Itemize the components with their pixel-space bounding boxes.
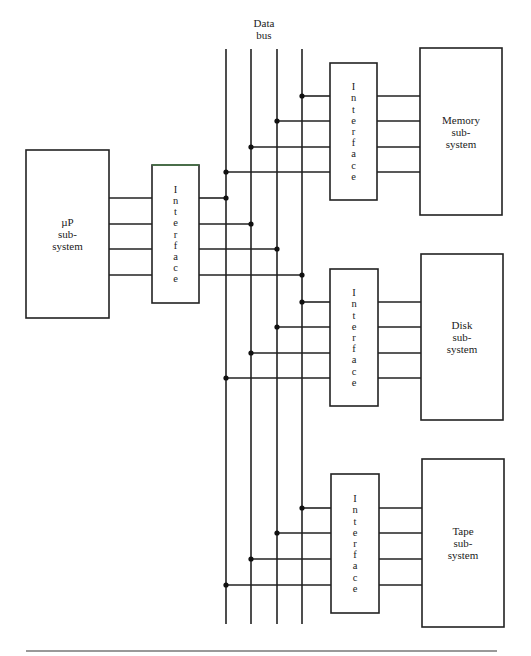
disk-subsystem-label-line: sub- bbox=[453, 331, 472, 343]
junction-dot bbox=[223, 195, 228, 200]
memory-interface-label-letter: f bbox=[352, 137, 356, 148]
tape-subsystem-label-line: system bbox=[448, 549, 479, 561]
tape-interface-label-letter: e bbox=[353, 583, 358, 594]
tape-interface-label-letter: c bbox=[353, 572, 358, 583]
processor-subsystem-label-line: system bbox=[52, 240, 83, 252]
disk-interface-label-letter: r bbox=[352, 332, 356, 343]
tape-subsystem-label-line: Tape bbox=[452, 525, 473, 537]
disk-interface-label-letter: c bbox=[352, 366, 357, 377]
processor-interface-label-letter: n bbox=[173, 195, 179, 206]
junction-dot bbox=[274, 324, 279, 329]
disk-interface-label-letter: I bbox=[352, 287, 356, 298]
junction-dot bbox=[248, 556, 253, 561]
disk-subsystem-label-line: system bbox=[447, 343, 478, 355]
processor-subsystem-label-line: µP bbox=[61, 216, 73, 228]
junction-dot bbox=[299, 272, 304, 277]
tape-interface-label-letter: I bbox=[353, 493, 357, 504]
processor-subsystem-label-line: sub- bbox=[58, 228, 77, 240]
tape-interface-label-letter: a bbox=[353, 560, 358, 571]
junction-dot bbox=[274, 118, 279, 123]
memory-interface-label-letter: e bbox=[351, 115, 356, 126]
memory-interface-label-letter: I bbox=[352, 81, 356, 92]
processor-interface-label-letter: c bbox=[173, 262, 178, 273]
junction-dot bbox=[299, 505, 304, 510]
memory-interface-label-letter: a bbox=[351, 148, 356, 159]
junction-dot bbox=[299, 93, 304, 98]
processor-interface-label-letter: r bbox=[174, 229, 178, 240]
disk-interface-label-letter: t bbox=[353, 310, 356, 321]
data-bus-label: Data bus bbox=[254, 17, 275, 41]
junction-dot bbox=[223, 375, 228, 380]
component-boxes: µPsub-systemInterfaceInterfaceMemorysub-… bbox=[26, 48, 504, 627]
memory-interface-label-letter: e bbox=[351, 171, 356, 182]
tape-interface-label-letter: e bbox=[353, 527, 358, 538]
junction-dot bbox=[299, 299, 304, 304]
disk-interface-label-letter: a bbox=[352, 354, 357, 365]
processor-interface-label-letter: f bbox=[174, 240, 178, 251]
tape-subsystem-label-line: sub- bbox=[454, 537, 473, 549]
memory-subsystem-label-line: Memory bbox=[442, 114, 480, 126]
processor-interface-label-letter: I bbox=[174, 184, 178, 195]
processor-interface-label-letter: a bbox=[173, 251, 178, 262]
memory-subsystem-label-line: system bbox=[446, 138, 477, 150]
memory-interface-label-letter: t bbox=[352, 104, 355, 115]
processor-interface-label-letter: t bbox=[174, 206, 177, 217]
disk-interface-label-letter: f bbox=[352, 343, 356, 354]
computer-system-bus-diagram: Data bus µPsub-systemInterfaceInterfaceM… bbox=[0, 0, 531, 656]
junction-dot bbox=[248, 221, 253, 226]
memory-subsystem-label-line: sub- bbox=[452, 126, 471, 138]
disk-interface-label-letter: e bbox=[352, 321, 357, 332]
disk-subsystem-label-line: Disk bbox=[452, 319, 473, 331]
data-bus-label-line1: Data bbox=[254, 17, 275, 29]
junction-dot bbox=[223, 169, 228, 174]
memory-interface-label-letter: r bbox=[352, 126, 356, 137]
processor-interface-label-letter: e bbox=[173, 273, 178, 284]
memory-interface-label-letter: c bbox=[351, 160, 356, 171]
tape-interface-label-letter: t bbox=[354, 516, 357, 527]
tape-interface-label-letter: f bbox=[353, 549, 357, 560]
junction-dots bbox=[223, 93, 304, 587]
tape-interface-label-letter: r bbox=[353, 538, 357, 549]
tape-interface-label-letter: n bbox=[352, 504, 358, 515]
disk-interface-label-letter: e bbox=[352, 377, 357, 388]
memory-interface-label-letter: n bbox=[351, 92, 357, 103]
processor-interface-label-letter: e bbox=[173, 217, 178, 228]
disk-interface-label-letter: n bbox=[351, 298, 357, 309]
data-bus bbox=[226, 49, 302, 624]
junction-dot bbox=[248, 144, 253, 149]
junction-dot bbox=[223, 582, 228, 587]
junction-dot bbox=[274, 530, 279, 535]
junction-dot bbox=[274, 246, 279, 251]
junction-dot bbox=[248, 350, 253, 355]
data-bus-label-line2: bus bbox=[256, 29, 271, 41]
